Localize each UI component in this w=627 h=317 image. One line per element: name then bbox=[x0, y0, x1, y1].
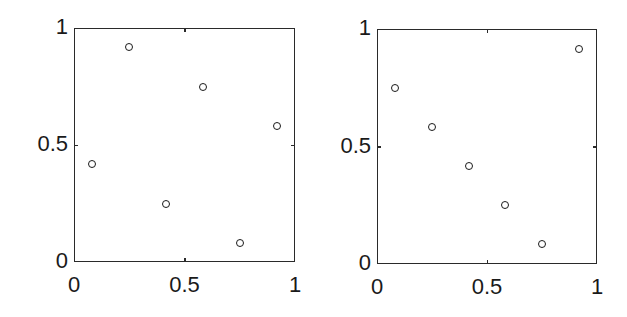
x-tick-mark bbox=[184, 28, 186, 32]
data-point-marker bbox=[575, 45, 583, 53]
y-tick-label: 0.5 bbox=[8, 133, 68, 155]
y-tick-label: 1 bbox=[8, 16, 68, 38]
y-tick-mark bbox=[291, 145, 295, 147]
y-tick-label: 1 bbox=[311, 17, 371, 39]
axes-box bbox=[377, 29, 597, 264]
x-tick-label: 0 bbox=[347, 276, 407, 298]
y-tick-label: 0 bbox=[8, 250, 68, 272]
data-point-marker bbox=[428, 123, 436, 131]
data-point-marker bbox=[236, 239, 244, 247]
x-tick-label: 0.5 bbox=[155, 274, 215, 296]
y-tick-label: 0.5 bbox=[311, 135, 371, 157]
x-tick-label: 0 bbox=[44, 274, 104, 296]
data-point-marker bbox=[199, 83, 207, 91]
data-point-marker bbox=[162, 200, 170, 208]
x-tick-mark bbox=[487, 29, 489, 33]
data-point-marker bbox=[273, 122, 281, 130]
x-tick-mark bbox=[184, 258, 186, 262]
x-tick-label: 1 bbox=[567, 276, 627, 298]
data-point-marker bbox=[465, 162, 473, 170]
x-tick-label: 0.5 bbox=[457, 276, 517, 298]
x-tick-mark bbox=[487, 260, 489, 264]
axes-box bbox=[74, 28, 295, 262]
y-tick-mark bbox=[593, 146, 597, 148]
y-tick-mark bbox=[377, 146, 381, 148]
x-tick-label: 1 bbox=[265, 274, 325, 296]
y-tick-label: 0 bbox=[311, 252, 371, 274]
y-tick-mark bbox=[74, 145, 78, 147]
data-point-marker bbox=[391, 84, 399, 92]
